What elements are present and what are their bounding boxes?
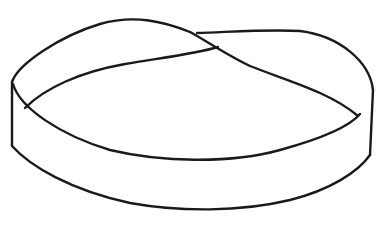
mobius-strip-figure [0,0,383,228]
mobius-strip-drawing [0,0,383,228]
outer-top-left-edge [12,19,190,82]
twist-descending-strand [190,32,358,116]
right-side-edge [370,90,373,155]
outer-top-right-edge [197,30,373,90]
inner-upper-strand [25,47,218,108]
inner-bottom-edge [13,84,360,160]
outer-bottom-edge [12,146,370,209]
